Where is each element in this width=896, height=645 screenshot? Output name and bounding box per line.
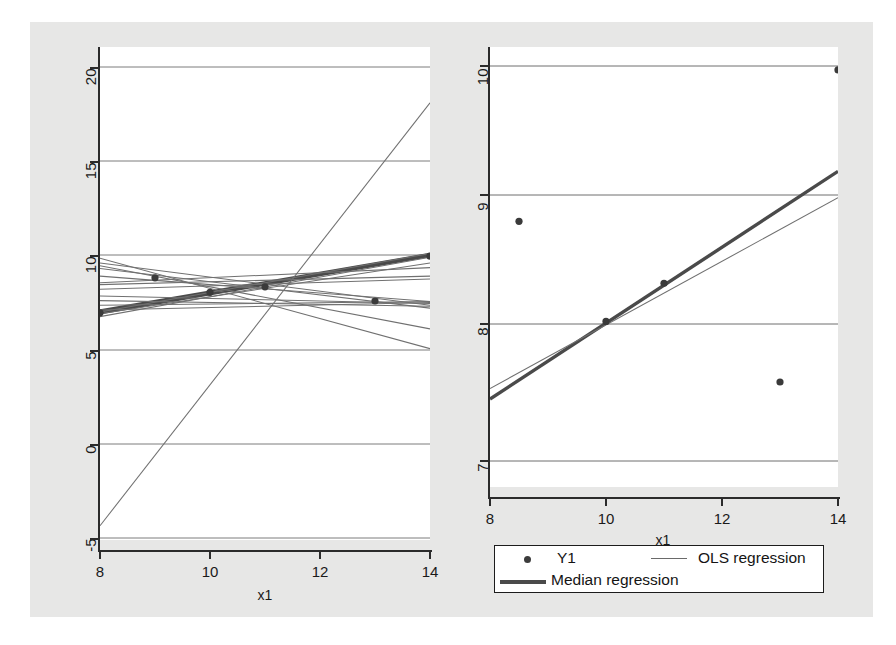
regression-line bbox=[100, 103, 430, 526]
right-ytickmark-10 bbox=[480, 65, 489, 67]
right-ytickmark-8 bbox=[480, 323, 489, 325]
data-point bbox=[834, 66, 838, 73]
data-point bbox=[776, 378, 783, 385]
right-plot-svg bbox=[490, 47, 838, 487]
right-xtick-14: 14 bbox=[819, 510, 857, 527]
legend-box: Y1 OLS regression Median regression bbox=[494, 545, 824, 593]
left-yaxis-spine bbox=[98, 47, 100, 551]
left-ytick-0: 0 bbox=[82, 446, 99, 488]
data-point bbox=[371, 297, 378, 304]
left-plot-svg bbox=[100, 47, 430, 540]
left-regression-lines bbox=[100, 103, 430, 526]
right-xtick-8: 8 bbox=[475, 510, 505, 527]
right-gridlines bbox=[490, 66, 838, 461]
legend-marker-thick-line bbox=[500, 580, 546, 584]
left-xtick-8: 8 bbox=[85, 563, 115, 580]
left-ytickmark-20 bbox=[90, 67, 99, 69]
left-xtick-14: 14 bbox=[411, 563, 449, 580]
figure-canvas: 20 15 10 5 0 -5 bbox=[30, 22, 873, 617]
left-xtickmark-8 bbox=[99, 551, 101, 559]
right-xtickmark-12 bbox=[721, 498, 723, 506]
right-data-points bbox=[515, 66, 838, 385]
regression-line bbox=[490, 198, 838, 389]
right-yaxis-spine bbox=[488, 47, 490, 498]
data-point bbox=[515, 218, 522, 225]
right-ytickmark-7 bbox=[480, 460, 489, 462]
legend-label-ols: OLS regression bbox=[698, 549, 806, 567]
left-xaxis-spine bbox=[98, 550, 432, 552]
right-xtick-10: 10 bbox=[587, 510, 625, 527]
left-panel: 20 15 10 5 0 -5 bbox=[30, 22, 460, 617]
right-plot-area bbox=[490, 47, 838, 487]
legend-entry-y1[interactable]: Y1 bbox=[495, 546, 645, 570]
left-xtick-12: 12 bbox=[301, 563, 339, 580]
left-xtickmark-12 bbox=[319, 551, 321, 559]
legend-label-median: Median regression bbox=[551, 571, 679, 589]
left-ytickmark-10 bbox=[90, 255, 99, 257]
left-ytick-5: 5 bbox=[82, 352, 99, 394]
right-xtick-12: 12 bbox=[703, 510, 741, 527]
data-point bbox=[660, 280, 667, 287]
right-ytickmark-9 bbox=[480, 194, 489, 196]
left-xaxis-title: x1 bbox=[210, 587, 320, 603]
left-ytickmark-15 bbox=[90, 161, 99, 163]
legend-entry-median[interactable]: Median regression bbox=[495, 570, 745, 594]
left-xtick-10: 10 bbox=[191, 563, 229, 580]
legend-entry-ols[interactable]: OLS regression bbox=[645, 546, 825, 570]
left-ytick-20: 20 bbox=[82, 69, 99, 111]
left-ytickmark-0 bbox=[90, 444, 99, 446]
data-point bbox=[602, 318, 609, 325]
left-plot-area bbox=[100, 47, 430, 540]
left-ytickmark-minus5 bbox=[90, 538, 99, 540]
left-ytick-10: 10 bbox=[82, 257, 99, 299]
data-point bbox=[261, 283, 268, 290]
right-xtickmark-10 bbox=[605, 498, 607, 506]
legend-marker-thin-line bbox=[651, 558, 687, 559]
left-ytick-15: 15 bbox=[82, 163, 99, 205]
data-point bbox=[206, 289, 213, 296]
left-xtickmark-14 bbox=[429, 551, 431, 559]
right-xtickmark-8 bbox=[489, 498, 491, 506]
left-ytickmark-5 bbox=[90, 350, 99, 352]
left-xtickmark-10 bbox=[209, 551, 211, 559]
right-panel: 10 9 8 7 8 10 12 bbox=[445, 22, 873, 617]
right-xtickmark-14 bbox=[837, 498, 839, 506]
data-point bbox=[151, 274, 158, 281]
legend-label-y1: Y1 bbox=[557, 549, 576, 567]
right-xaxis-spine bbox=[488, 497, 840, 499]
legend-marker-dot bbox=[524, 556, 531, 563]
